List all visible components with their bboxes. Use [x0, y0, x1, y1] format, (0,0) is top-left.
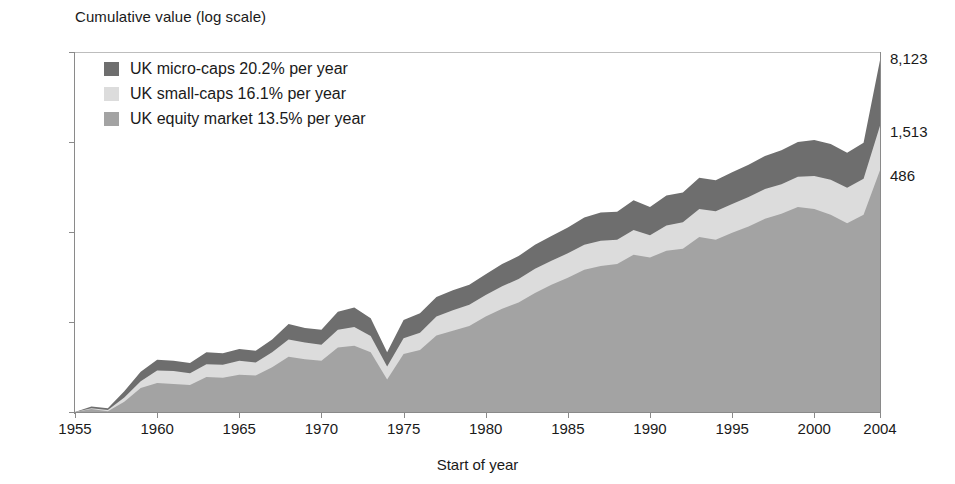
chart-legend: UK micro-caps 20.2% per year UK small-ca…: [104, 56, 366, 131]
legend-label-equity-market: UK equity market 13.5% per year: [130, 110, 366, 128]
x-tick-mark: [486, 412, 487, 418]
x-tick-mark: [814, 412, 815, 418]
legend-item-micro-caps: UK micro-caps 20.2% per year: [104, 56, 366, 81]
plot-top-border: [75, 52, 881, 53]
y-axis-tick-labels: 10,0001,000100101: [0, 0, 68, 484]
end-label-micro-caps: 8,123: [890, 50, 928, 67]
chart-figure: Cumulative value (log scale) 10,0001,000…: [0, 0, 955, 484]
legend-label-micro-caps: UK micro-caps 20.2% per year: [130, 60, 348, 78]
x-tick-label: 1965: [223, 420, 256, 437]
x-tick-label: 1960: [140, 420, 173, 437]
x-tick-label: 1980: [469, 420, 502, 437]
x-tick-label: 1970: [305, 420, 338, 437]
x-axis-title: Start of year: [0, 456, 955, 473]
y-axis-line: [74, 52, 75, 414]
x-tick-label: 2004: [863, 420, 896, 437]
y-tick-mark: [69, 142, 75, 143]
x-tick-label: 1990: [633, 420, 666, 437]
legend-label-small-caps: UK small-caps 16.1% per year: [130, 85, 346, 103]
legend-swatch-equity-market: [104, 112, 119, 126]
legend-swatch-micro-caps: [104, 62, 119, 76]
x-tick-mark: [321, 412, 322, 418]
x-tick-label: 1975: [387, 420, 420, 437]
y-tick-mark: [69, 232, 75, 233]
y-tick-mark: [69, 412, 75, 413]
x-tick-label: 1995: [715, 420, 748, 437]
y-tick-mark: [69, 322, 75, 323]
legend-swatch-small-caps: [104, 87, 119, 101]
legend-item-equity-market: UK equity market 13.5% per year: [104, 106, 366, 131]
x-tick-mark: [239, 412, 240, 418]
x-tick-mark: [404, 412, 405, 418]
x-tick-mark: [157, 412, 158, 418]
x-tick-mark: [650, 412, 651, 418]
plot-right-border: [880, 52, 881, 413]
x-axis-line: [74, 412, 881, 413]
x-tick-mark: [568, 412, 569, 418]
x-tick-mark: [880, 412, 881, 418]
x-tick-label: 1985: [551, 420, 584, 437]
y-axis-title: Cumulative value (log scale): [75, 8, 266, 25]
x-tick-label: 1955: [58, 420, 91, 437]
x-tick-mark: [732, 412, 733, 418]
x-tick-label: 2000: [798, 420, 831, 437]
legend-item-small-caps: UK small-caps 16.1% per year: [104, 81, 366, 106]
y-tick-mark: [69, 52, 75, 53]
x-tick-mark: [75, 412, 76, 418]
end-label-equity-market: 486: [890, 167, 915, 184]
end-label-small-caps: 1,513: [890, 123, 928, 140]
